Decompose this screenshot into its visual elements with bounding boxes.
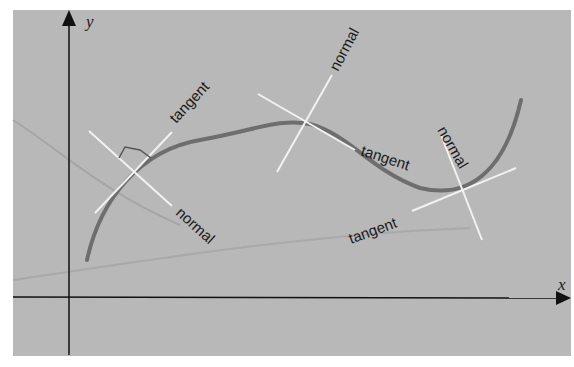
diagram-panel <box>13 10 571 356</box>
x-axis-label: x <box>557 275 566 294</box>
tangent-normal-diagram: x y tangent normal normal tangent normal <box>0 0 574 367</box>
diagram-canvas: x y tangent normal normal tangent normal <box>0 0 574 367</box>
x-axis <box>13 297 556 298</box>
y-axis-label: y <box>84 12 94 31</box>
